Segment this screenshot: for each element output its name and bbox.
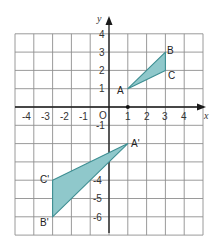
point-label-b-prime: B' <box>40 217 49 228</box>
x-axis-label: x <box>203 110 209 121</box>
point-label-c-prime: C' <box>40 174 49 185</box>
y-tick-label: 4 <box>99 29 105 40</box>
marked-point <box>126 105 130 109</box>
point-label-a-prime: A' <box>131 138 140 149</box>
y-tick-label: 3 <box>99 47 105 58</box>
x-tick-label: 4 <box>181 111 187 122</box>
y-tick-label: -4 <box>93 175 102 186</box>
x-tick-label: 1 <box>125 111 131 122</box>
coordinate-grid: x y -4 -3 -2 -1 1 2 3 4 O 4 3 2 1 -1 -4 … <box>0 0 213 247</box>
y-axis-label: y <box>96 13 102 24</box>
x-tick-label: 2 <box>144 111 150 122</box>
x-tick-label: -3 <box>41 111 50 122</box>
x-tick-label: -2 <box>60 111 69 122</box>
x-tick-label: -1 <box>79 111 88 122</box>
y-tick-label: 1 <box>99 83 105 94</box>
x-tick-label: 3 <box>162 111 168 122</box>
y-tick-label: -5 <box>93 193 102 204</box>
y-axis-arrow-icon <box>106 16 113 25</box>
y-tick-label: -6 <box>93 212 102 223</box>
point-label-c: C <box>168 70 175 81</box>
x-tick-label: -4 <box>22 111 31 122</box>
point-label-b: B <box>167 45 174 56</box>
y-tick-label: 2 <box>99 65 105 76</box>
y-tick-label: -1 <box>96 120 105 131</box>
point-label-a: A <box>117 85 124 96</box>
